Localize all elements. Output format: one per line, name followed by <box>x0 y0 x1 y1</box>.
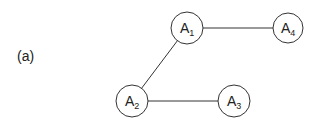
node-a2: A2 <box>116 85 148 117</box>
node-a1: A1 <box>171 12 203 44</box>
edge-a1-a2 <box>142 41 178 88</box>
node-a3: A3 <box>218 85 250 117</box>
graph-diagram: A1A2A3A4 <box>0 0 321 126</box>
edges <box>142 28 273 101</box>
node-a4: A4 <box>273 13 303 43</box>
